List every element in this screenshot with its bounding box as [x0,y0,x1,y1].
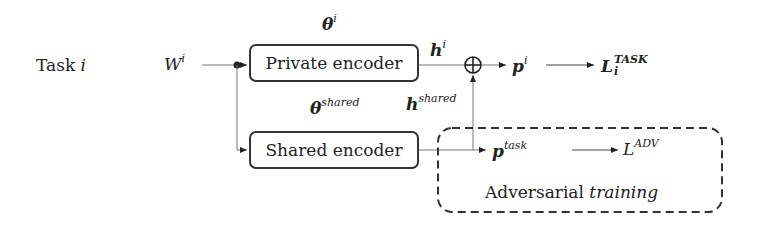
h-private-sup: i [442,38,446,51]
p-private-sup: i [524,54,528,67]
multitask-adversarial-diagram: Task i Wi θi Private encoder θshared Sha… [0,0,757,228]
shared-encoder-box: Shared encoder [249,131,419,169]
adversarial-text: Adversarial [485,182,584,202]
p-task: ptask [492,143,527,160]
p-task-sup: task [504,139,527,152]
theta-shared-base: θ [310,98,321,118]
theta-sup: i [333,12,337,25]
private-encoder-box: Private encoder [249,44,419,82]
loss-task-sup: TASK [614,54,648,66]
loss-adv-base: L [623,139,634,159]
input-base: W [164,54,181,74]
input-sup: i [181,52,185,65]
loss-task: LTASKi [601,56,648,79]
p-private-base: p [512,56,524,76]
p-task-base: p [492,141,504,161]
h-shared: hshared [406,96,456,113]
task-label: Task i [36,57,86,74]
shared-encoder-label: Shared encoder [265,140,402,160]
loss-adv-sup: ADV [634,137,659,150]
theta-shared: θshared [310,100,359,117]
theta-private: θi [322,16,337,33]
h-shared-sup: shared [418,92,456,105]
private-encoder-label: Private encoder [266,53,403,73]
theta-shared-sup: shared [321,96,359,109]
task-text: Task [36,55,75,75]
adversarial-training-label: Adversarial training [485,184,658,201]
task-index: i [81,55,86,75]
h-private: hi [430,42,446,59]
loss-task-sub: i [614,66,648,78]
loss-adv: LADV [623,141,659,158]
theta-base: θ [322,14,333,34]
h-shared-base: h [406,94,418,114]
training-text: training [589,182,658,202]
loss-task-base: L [601,56,613,76]
h-private-base: h [430,40,442,60]
input-w: Wi [164,56,185,73]
p-private: pi [512,58,527,75]
